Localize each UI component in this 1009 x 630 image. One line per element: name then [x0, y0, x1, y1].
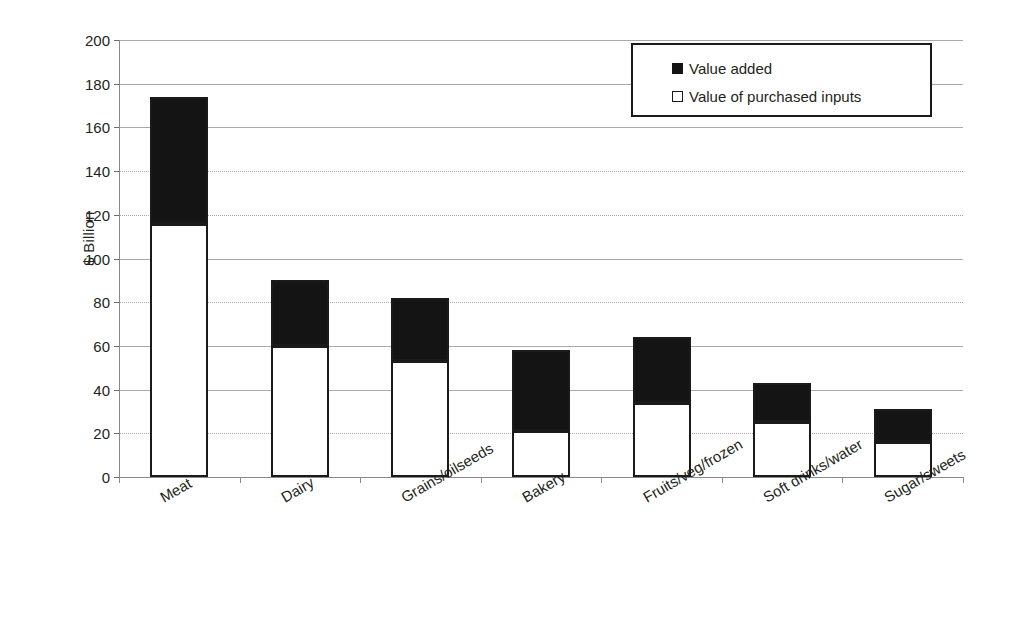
y-axis-title: $ Billion — [80, 169, 97, 309]
y-axis-line — [119, 40, 120, 477]
y-tick-label: 60 — [93, 337, 110, 354]
legend-label: Value of purchased inputs — [689, 88, 861, 105]
legend-swatch-hollow-square-icon — [672, 91, 683, 102]
bar-segment-purchased-inputs — [391, 361, 449, 477]
bar-chart: $ Billion 020406080100120140160180200 Me… — [0, 0, 1009, 630]
y-tick-label: 200 — [85, 32, 110, 49]
legend-swatch-filled-square-icon — [672, 63, 683, 74]
y-tick-label: 140 — [85, 163, 110, 180]
legend-item-value-added: Value added — [672, 54, 930, 82]
bar-segment-purchased-inputs — [271, 346, 329, 477]
y-tick-label: 40 — [93, 381, 110, 398]
bar-group — [512, 40, 570, 477]
y-tick-label: 120 — [85, 206, 110, 223]
bar-segment-value-added — [391, 298, 449, 361]
bar-segment-value-added — [512, 350, 570, 431]
y-tick-label: 180 — [85, 75, 110, 92]
bar-segment-value-added — [753, 383, 811, 422]
bar-segment-purchased-inputs — [150, 224, 208, 477]
y-tick-label: 0 — [102, 469, 110, 486]
bar-group — [271, 40, 329, 477]
x-axis-label: Meat — [157, 474, 194, 505]
y-tick-label: 100 — [85, 250, 110, 267]
bar-segment-value-added — [271, 280, 329, 346]
x-tick-mark — [963, 477, 964, 483]
legend-label: Value added — [689, 60, 772, 77]
bar-group — [391, 40, 449, 477]
bar-segment-value-added — [150, 97, 208, 224]
bar-segment-value-added — [874, 409, 932, 442]
chart-legend: Value added Value of purchased inputs — [631, 43, 932, 117]
y-tick-label: 80 — [93, 294, 110, 311]
y-tick-label: 160 — [85, 119, 110, 136]
legend-item-purchased-inputs: Value of purchased inputs — [672, 82, 930, 110]
bar-group — [150, 40, 208, 477]
x-axis-label: Dairy — [278, 473, 317, 505]
bar-segment-value-added — [633, 337, 691, 403]
y-tick-label: 20 — [93, 425, 110, 442]
